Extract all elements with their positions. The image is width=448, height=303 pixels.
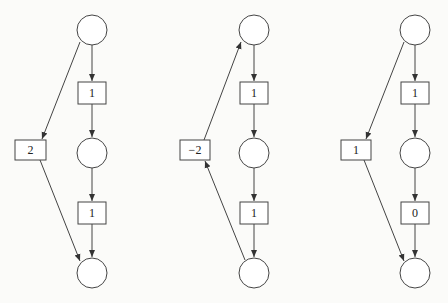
arc-side-to-bottom	[364, 160, 404, 261]
arc-side-to-bottom	[40, 160, 80, 261]
place-top	[400, 15, 430, 45]
transition-side-label: 2	[28, 143, 34, 157]
transition-lower-label: 1	[89, 206, 95, 220]
place-mid	[400, 138, 430, 168]
place-mid	[239, 138, 269, 168]
arc-top-to-side	[366, 42, 404, 139]
place-mid	[77, 138, 107, 168]
arc-top-to-side	[42, 42, 80, 139]
place-bottom	[77, 258, 107, 288]
transition-side-label: 1	[353, 143, 359, 157]
transition-upper-label: 1	[412, 86, 418, 100]
arc-bottom-to-side	[205, 161, 245, 260]
arc-side-to-top	[204, 42, 241, 140]
transition-side-label: −2	[189, 143, 202, 157]
place-top	[77, 15, 107, 45]
transition-lower-label: 0	[412, 206, 418, 220]
transition-upper-label: 1	[251, 86, 257, 100]
place-bottom	[400, 258, 430, 288]
diagram-canvas: 1 1 2 1 1 −2 1 0	[0, 0, 448, 303]
place-top	[239, 15, 269, 45]
place-bottom	[239, 258, 269, 288]
transition-lower-label: 1	[251, 206, 257, 220]
transition-upper-label: 1	[89, 86, 95, 100]
graph-3: 1 0 1	[341, 15, 430, 288]
graph-2: 1 1 −2	[180, 15, 269, 288]
graph-1: 1 1 2	[15, 15, 107, 288]
